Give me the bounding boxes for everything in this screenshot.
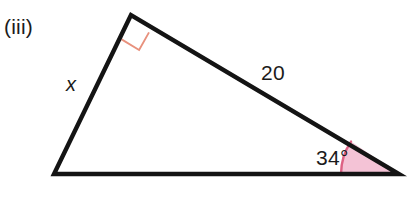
figure-canvas: (iii) x 20 34° [0,0,411,202]
side-label-20: 20 [261,62,285,83]
triangle-diagram-svg [0,0,411,202]
angle-label-34: 34° [316,147,349,168]
right-angle-square-icon [122,32,149,50]
part-label: (iii) [4,16,33,37]
side-label-x: x [66,74,76,94]
